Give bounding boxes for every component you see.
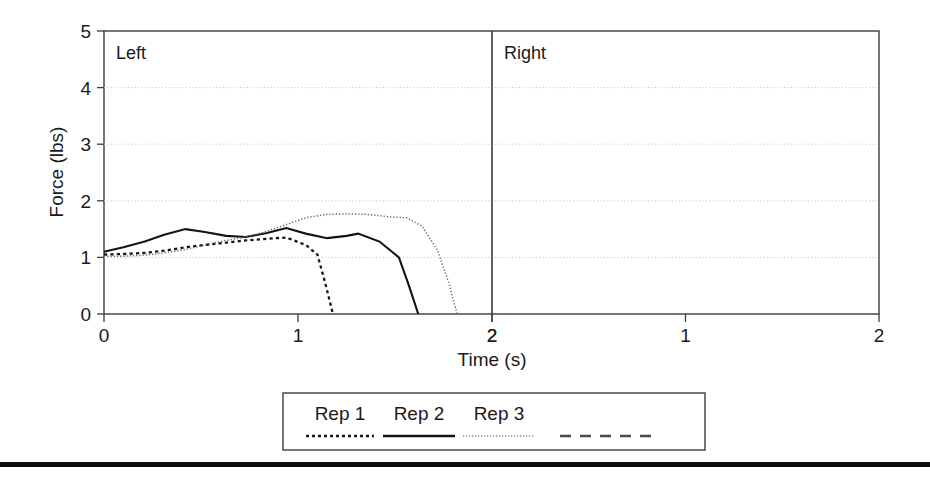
y-tick-label: 0 xyxy=(80,304,91,325)
legend-label-1: Rep 1 xyxy=(315,403,366,424)
data-series-group xyxy=(104,214,457,314)
x-tick-label: 1 xyxy=(680,325,691,346)
y-tick-label: 1 xyxy=(80,247,91,268)
chart-svg: 012345 012212 Left Right Time (s) Force … xyxy=(0,0,930,487)
y-axis-title: Force (lbs) xyxy=(46,127,67,218)
x-axis-title: Time (s) xyxy=(458,349,527,370)
series-line-rep-2 xyxy=(104,228,418,314)
y-tick-label: 3 xyxy=(80,134,91,155)
x-tick-label: 0 xyxy=(99,325,110,346)
x-tick-label: 1 xyxy=(293,325,304,346)
bottom-rule xyxy=(0,460,930,470)
panel-label-right: Right xyxy=(504,43,546,63)
panel-label-left: Left xyxy=(116,43,146,63)
x-axis: 012212 xyxy=(99,314,885,346)
legend-label-2: Rep 2 xyxy=(394,403,445,424)
y-tick-label: 5 xyxy=(80,21,91,42)
y-axis: 012345 xyxy=(80,21,879,325)
x-tick-label: 2 xyxy=(487,325,498,346)
figure-container: 012345 012212 Left Right Time (s) Force … xyxy=(0,0,930,487)
series-line-rep-1 xyxy=(104,238,333,314)
x-tick-label: 2 xyxy=(874,325,885,346)
y-tick-label: 4 xyxy=(80,78,91,99)
legend-label-3: Rep 3 xyxy=(474,403,525,424)
y-tick-label: 2 xyxy=(80,191,91,212)
